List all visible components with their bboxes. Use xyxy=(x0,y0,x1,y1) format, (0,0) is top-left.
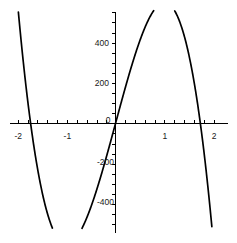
chart-figure: -2 -1 0 1 2 400 200 -200 -400 xyxy=(0,0,237,243)
x-tick-label-origin: 0 xyxy=(106,115,111,125)
chart-canvas: -2 -1 0 1 2 400 200 -200 -400 xyxy=(0,0,237,243)
y-tick-label: -400 xyxy=(97,197,114,207)
x-tick-label: 2 xyxy=(212,131,217,141)
y-tick-label: 200 xyxy=(95,78,109,88)
y-tick-label: 400 xyxy=(95,38,109,48)
x-tick-label: -2 xyxy=(14,131,22,141)
x-tick-label: -1 xyxy=(64,131,72,141)
x-tick-label: 1 xyxy=(163,131,168,141)
y-tick-label: -200 xyxy=(97,157,114,167)
y-axis-ticks xyxy=(112,13,116,225)
